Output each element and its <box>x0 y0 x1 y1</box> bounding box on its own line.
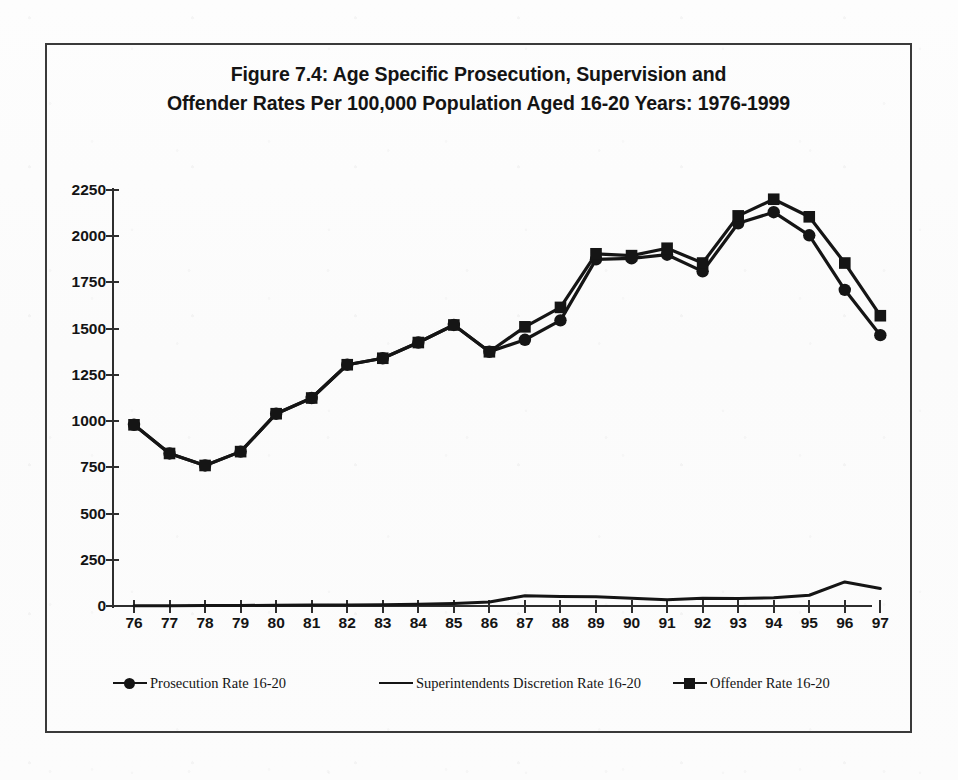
data-point-marker <box>875 310 887 322</box>
x-axis-tick-label: 91 <box>647 614 687 632</box>
legend-item[interactable]: Prosecution Rate 16-20 <box>113 672 286 694</box>
x-axis-tick-label: 78 <box>185 614 225 632</box>
data-point-marker <box>448 319 460 331</box>
y-axis-tick-label: 1750 <box>48 273 106 291</box>
y-axis-tick-label: 1000 <box>48 412 106 430</box>
data-point-marker <box>839 257 851 269</box>
data-point-marker <box>341 359 353 371</box>
data-point-marker <box>519 321 531 333</box>
data-point-marker <box>377 352 389 364</box>
data-point-marker <box>555 302 567 314</box>
x-axis-tick-label: 85 <box>434 614 474 632</box>
data-series <box>134 582 880 606</box>
x-axis-tick-label: 79 <box>221 614 261 632</box>
x-axis-tick-label: 88 <box>540 614 580 632</box>
x-axis-tick-label: 92 <box>683 614 723 632</box>
legend-item-label: Prosecution Rate 16-20 <box>150 675 286 692</box>
data-point-marker <box>626 250 638 262</box>
x-axis-tick-label: 97 <box>860 614 900 632</box>
y-axis-tick-label: 0 <box>48 597 106 615</box>
data-point-marker <box>697 257 709 269</box>
data-point-marker <box>306 392 318 404</box>
x-axis-tick-label: 87 <box>505 614 545 632</box>
y-axis-tick-label: 250 <box>48 551 106 569</box>
data-point-marker <box>768 206 780 218</box>
line-marker-icon <box>379 676 413 690</box>
data-point-marker <box>768 193 780 205</box>
data-point-marker <box>732 210 744 222</box>
x-axis-tick-label: 94 <box>754 614 794 632</box>
legend-item[interactable]: Offender Rate 16-20 <box>673 672 830 694</box>
page-title: Figure 7.4: Age Specific Prosecution, Su… <box>45 60 912 118</box>
chart-title-line-1: Figure 7.4: Age Specific Prosecution, Su… <box>45 60 912 89</box>
data-point-marker <box>803 229 815 241</box>
y-axis-tick-label: 500 <box>48 505 106 523</box>
legend-item-label: Superintendents Discretion Rate 16-20 <box>416 675 641 692</box>
x-axis-tick-label: 96 <box>825 614 865 632</box>
chart-title-line-2: Offender Rates Per 100,000 Population Ag… <box>45 89 912 118</box>
x-axis-tick-label: 77 <box>150 614 190 632</box>
x-axis-tick-label: 86 <box>469 614 509 632</box>
plot-area <box>113 190 870 606</box>
x-axis-tick-label: 82 <box>327 614 367 632</box>
legend-item-label: Offender Rate 16-20 <box>710 675 830 692</box>
data-point-marker <box>128 419 140 431</box>
x-axis-tick-label: 90 <box>612 614 652 632</box>
x-axis-tick-label: 76 <box>114 614 154 632</box>
series-line <box>134 582 880 606</box>
data-point-marker <box>235 446 247 458</box>
data-point-marker <box>590 248 602 260</box>
series-line <box>134 199 880 465</box>
y-axis-tick-labels: 0250500750100012501500175020002250 <box>42 0 106 780</box>
y-axis-tick-label: 1250 <box>48 366 106 384</box>
data-point-marker <box>164 448 176 460</box>
x-axis-tick-label: 89 <box>576 614 616 632</box>
legend-item[interactable]: Superintendents Discretion Rate 16-20 <box>379 672 641 694</box>
data-point-marker <box>413 337 425 349</box>
y-axis-tick-label: 1500 <box>48 320 106 338</box>
y-axis-tick-label: 750 <box>48 458 106 476</box>
series-canvas <box>113 190 870 606</box>
data-point-marker <box>661 242 673 254</box>
data-point-marker <box>803 211 815 223</box>
data-point-marker <box>839 284 851 296</box>
square-marker-icon <box>673 676 707 690</box>
data-point-marker <box>270 408 282 420</box>
data-point-marker <box>554 314 566 326</box>
circle-marker-icon <box>113 676 147 690</box>
x-axis-tick-label: 83 <box>363 614 403 632</box>
y-axis-tick-label: 2000 <box>48 227 106 245</box>
x-axis-tick-label: 80 <box>256 614 296 632</box>
x-axis-tick-label: 81 <box>292 614 332 632</box>
data-point-marker <box>874 329 886 341</box>
data-series <box>128 193 886 471</box>
data-point-marker <box>199 460 211 472</box>
x-axis-tick-label: 95 <box>789 614 829 632</box>
data-point-marker <box>519 334 531 346</box>
x-axis-tick-label: 84 <box>398 614 438 632</box>
data-point-marker <box>484 346 496 358</box>
y-axis-tick-label: 2250 <box>48 181 106 199</box>
chart-legend: Prosecution Rate 16-20Superintendents Di… <box>113 672 873 694</box>
x-axis-tick-label: 93 <box>718 614 758 632</box>
x-axis-tick-mark <box>879 600 881 613</box>
